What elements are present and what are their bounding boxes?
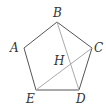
vertex-label-b: B [52,6,62,20]
vertex-label-a: A [9,41,19,55]
vertex-label-c: C [94,41,103,55]
vertex-label-d: D [75,92,86,106]
pentagon-diagram: A B C D E H [0,0,106,106]
intersection-label-h: H [53,54,65,68]
vertex-label-e: E [25,92,35,106]
